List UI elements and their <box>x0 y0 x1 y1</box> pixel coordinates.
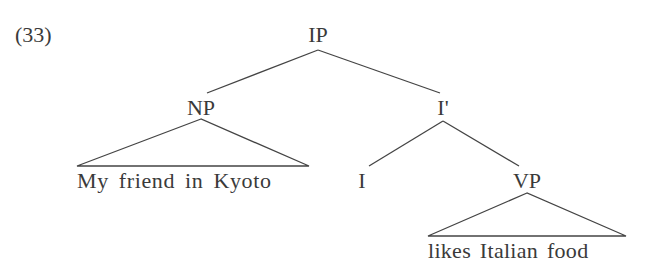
node-ip: IP <box>308 24 328 46</box>
node-vp: VP <box>513 170 541 192</box>
example-number: (33) <box>15 24 52 46</box>
leaf-np-phrase: My friend in Kyoto <box>77 170 272 192</box>
leaf-vp-phrase: likes Italian food <box>428 240 588 262</box>
np-triangle <box>77 119 309 166</box>
branch-ip-np <box>207 50 318 93</box>
node-ibar: I' <box>437 97 448 119</box>
node-np: NP <box>187 97 215 119</box>
branch-ibar-i <box>369 121 443 166</box>
branch-ibar-vp <box>443 121 519 166</box>
branch-ip-ibar <box>318 50 440 93</box>
node-i: I <box>358 170 365 192</box>
vp-triangle <box>428 193 626 236</box>
